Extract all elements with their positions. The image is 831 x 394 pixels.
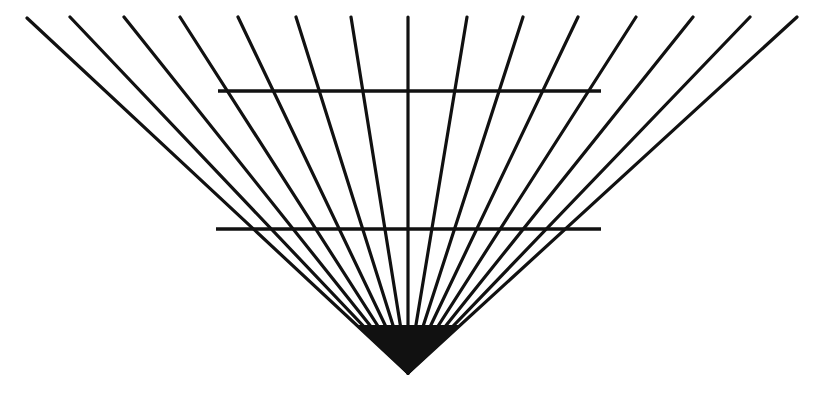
illusion-figure-svg [0,0,831,394]
illusion-figure-canvas [0,0,831,394]
